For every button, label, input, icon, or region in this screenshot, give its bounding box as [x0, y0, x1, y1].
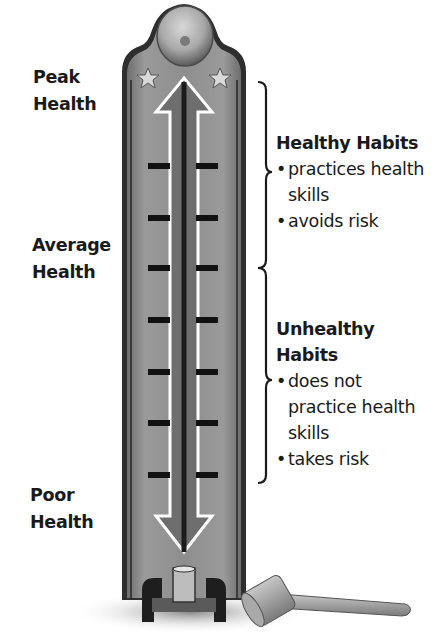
label-average-health: Average Health	[32, 232, 111, 286]
label-line: Peak	[33, 64, 96, 91]
bell-icon	[157, 6, 213, 66]
healthy-habits-title: Healthy Habits	[276, 130, 434, 156]
label-line: Health	[33, 91, 96, 118]
unhealthy-bullet: does not practice health skills	[276, 368, 434, 446]
unhealthy-habits-title-line2: Habits	[276, 342, 434, 368]
unhealthy-habits-title-line1: Unhealthy	[276, 316, 434, 342]
label-poor-health: Poor Health	[30, 482, 93, 536]
label-line: Health	[32, 259, 111, 286]
healthy-bullet: avoids risk	[276, 208, 434, 234]
label-line: Average	[32, 232, 111, 259]
unhealthy-bracket	[258, 268, 272, 483]
label-peak-health: Peak Health	[33, 64, 96, 118]
healthy-habits-block: Healthy Habits practices health skills a…	[276, 130, 434, 234]
label-line: Poor	[30, 482, 93, 509]
label-line: Health	[30, 509, 93, 536]
healthy-bullet: practices health skills	[276, 156, 434, 208]
healthy-bracket	[258, 82, 272, 268]
unhealthy-bullet: takes risk	[276, 446, 434, 472]
mallet-icon	[237, 573, 410, 629]
unhealthy-habits-block: Unhealthy Habits does not practice healt…	[276, 316, 434, 472]
